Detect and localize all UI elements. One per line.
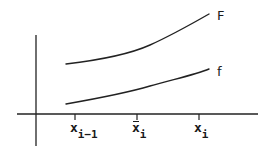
label-x-bar-i: xi <box>132 121 146 134</box>
label-f: f <box>217 65 222 78</box>
label-x-i-minus-1-sub: i−1 <box>78 128 98 141</box>
label-x-i-minus-1: xi−1 <box>70 121 98 134</box>
label-x-i-sub: i <box>202 128 209 141</box>
curve-f <box>66 69 209 104</box>
label-x-bar-i-sub: i <box>140 128 147 141</box>
label-x-bar-i-base: x <box>132 120 140 135</box>
label-F: F <box>217 9 224 22</box>
curve-F <box>66 14 209 64</box>
diagram: F f xi−1 xi xi <box>0 0 270 153</box>
label-x-i-minus-1-base: x <box>70 120 78 135</box>
label-x-i-base: x <box>194 120 202 135</box>
label-x-i: xi <box>194 121 208 134</box>
